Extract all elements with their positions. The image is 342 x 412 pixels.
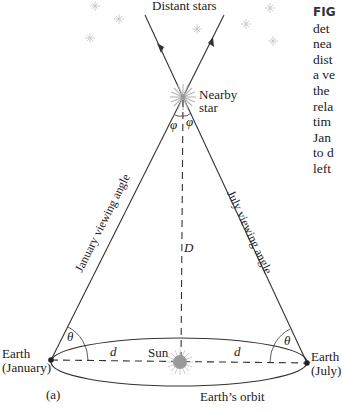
sightlines-to-distant-stars	[145, 15, 224, 97]
sun-icon	[167, 349, 193, 375]
caption-line: a ve	[313, 67, 342, 83]
earths-orbit-label: Earth’s orbit	[200, 390, 265, 404]
panel-label: (a)	[46, 388, 60, 402]
parallax-diagram: Distant stars Nearby star φ φ D θ θ d d …	[0, 0, 342, 412]
caption-line: FIG	[313, 5, 342, 21]
earth-january-label-line1: Earth	[2, 347, 30, 361]
d-right-label: d	[234, 345, 241, 359]
sun-label: Sun	[148, 346, 168, 360]
figure-caption-fragment: FIG det nea dist a ve the rela tim Jan t…	[313, 5, 342, 177]
arrow-icons	[157, 37, 214, 53]
caption-line: Jan	[313, 130, 342, 146]
distant-stars-label: Distant stars	[152, 0, 217, 13]
earth-january-label-line2: (January)	[2, 361, 51, 375]
caption-line: left	[313, 161, 342, 177]
caption-line: det	[313, 21, 342, 37]
earth-july-dot	[304, 360, 310, 366]
caption-line: the	[313, 83, 342, 99]
caption-line: rela	[313, 99, 342, 115]
distance-D-label: D	[184, 241, 193, 255]
phi-left-label: φ	[170, 118, 177, 132]
caption-line: nea	[313, 36, 342, 52]
caption-line: dist	[313, 52, 342, 68]
theta-right-label: θ	[284, 334, 290, 348]
caption-line: tim	[313, 114, 342, 130]
nearby-star-label-line2: star	[199, 101, 218, 115]
caption-line: to d	[313, 145, 342, 161]
d-left-label: d	[110, 345, 117, 359]
viewing-angle-lines	[51, 97, 307, 363]
distance-D-line	[181, 100, 183, 360]
theta-left-label: θ	[67, 330, 73, 344]
earth-july-label-line1: Earth	[311, 350, 339, 364]
diagram-canvas	[0, 0, 342, 412]
earth-july-label-line2: (July)	[311, 364, 341, 378]
phi-right-label: φ	[186, 115, 193, 129]
